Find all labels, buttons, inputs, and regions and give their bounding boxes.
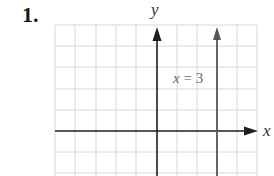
y-axis-label: y [149,0,159,19]
line-label-eq: = 3 [180,70,203,86]
y-axis [153,27,162,176]
grid [55,25,257,176]
y-axis-arrow-icon [153,27,162,41]
x-axis-label: x [262,121,271,140]
coordinate-graph: y x x = 3 [0,0,274,176]
line-equation-label: x = 3 [172,70,203,86]
line-arrow-icon [213,27,221,40]
line-x-equals-3 [213,27,221,176]
x-axis-arrow-icon [244,127,258,136]
